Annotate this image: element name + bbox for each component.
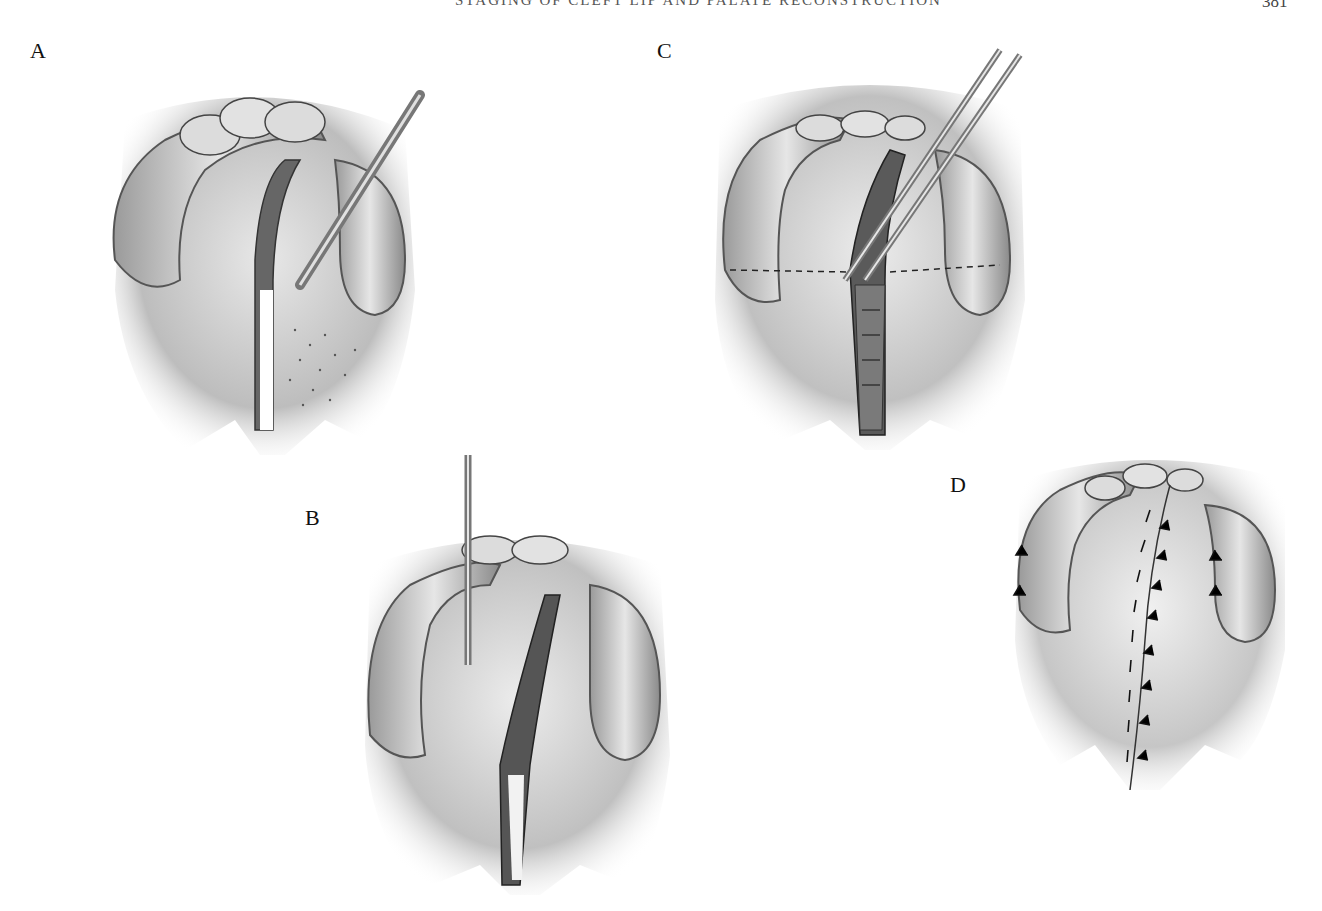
running-title: STAGING OF CLEFT LIP AND PALATE RECONSTR… — [455, 0, 942, 9]
panel-label-c: C — [657, 38, 672, 64]
illustration-panel-d — [1000, 410, 1300, 800]
panel-label-b: B — [305, 505, 320, 531]
running-header: STAGING OF CLEFT LIP AND PALATE RECONSTR… — [0, 0, 1322, 12]
panel-label-a: A — [30, 38, 46, 64]
illustration-panel-b — [340, 455, 690, 905]
illustration-panel-c — [700, 40, 1040, 450]
illustration-panel-a — [85, 60, 445, 460]
page-number: 381 — [1262, 0, 1288, 12]
panel-label-d: D — [950, 472, 966, 498]
